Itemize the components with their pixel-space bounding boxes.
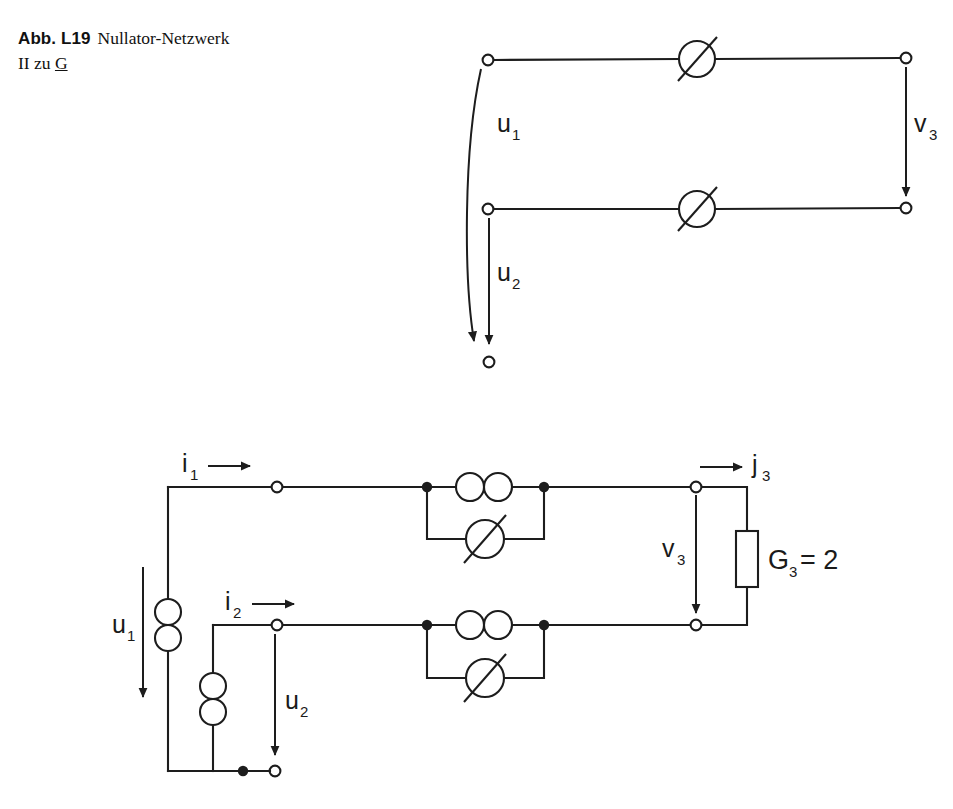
terminal-in-top	[272, 482, 283, 493]
terminal-in-bottom	[270, 766, 281, 777]
v3-label-bottom: v	[662, 534, 675, 562]
v3-label: v	[914, 109, 927, 137]
u2-label: u	[497, 258, 511, 286]
figure-page: Abb. L19Nullator-Netzwerk II zu G	[0, 0, 953, 809]
norator-port1	[155, 599, 181, 651]
wire-top-right	[715, 58, 900, 59]
nullator-top	[678, 37, 717, 81]
i2-label: i	[225, 587, 231, 615]
terminal-output-top	[901, 53, 912, 64]
junction-upper-right	[539, 482, 549, 492]
junction-upper-left	[422, 482, 432, 492]
terminal-out-top	[691, 482, 702, 493]
j3-label: j	[751, 450, 758, 478]
terminal-output-bottom	[901, 203, 912, 214]
g3-label-subscript: 3	[789, 563, 797, 580]
circuit-diagrams: u 1 u 2 v 3	[0, 0, 953, 809]
g3-label: G	[768, 545, 789, 575]
v3-label-subscript: 3	[929, 126, 937, 143]
terminal-reference-bottom	[484, 357, 495, 368]
u1-label-subscript: 1	[512, 126, 520, 143]
i1-label-subscript: 1	[190, 466, 198, 483]
wire-mid-right	[715, 208, 900, 209]
i1-label: i	[182, 449, 188, 477]
u2-label-subscript: 2	[512, 275, 520, 292]
u1-label: u	[497, 109, 511, 137]
nullor-block-upper	[422, 473, 549, 563]
u1-label-bottom: u	[112, 610, 126, 638]
i2-label-subscript: 2	[233, 604, 241, 621]
g3-value: = 2	[800, 545, 838, 575]
nullator-bottom	[678, 187, 717, 231]
norator-port2	[200, 673, 226, 725]
terminal-input-bottom	[483, 204, 494, 215]
junction-lower-right	[539, 620, 549, 630]
top-network-figure: u 1 u 2 v 3	[467, 37, 937, 367]
wire-g3-top	[696, 487, 747, 531]
nullor-block-lower	[422, 611, 549, 702]
u1-arc-arrow	[467, 69, 481, 341]
v3-label-bottom-subscript: 3	[677, 551, 685, 568]
junction-lower-left	[422, 620, 432, 630]
u2-label-bottom-subscript: 2	[300, 703, 308, 720]
bottom-network-figure: i 1 i 2 j 3 u 1 u 2 v 3 G 3 = 2	[112, 449, 838, 776]
u1-label-bottom-subscript: 1	[127, 627, 135, 644]
conductance-g3-body	[736, 531, 758, 587]
terminal-in-mid	[272, 620, 283, 631]
wire-g3-bottom	[696, 587, 747, 625]
terminal-out-bottom	[691, 620, 702, 631]
j3-label-subscript: 3	[762, 467, 770, 484]
u2-label-bottom: u	[285, 686, 299, 714]
wire-top-left	[494, 59, 679, 60]
terminal-input-top	[483, 55, 494, 66]
